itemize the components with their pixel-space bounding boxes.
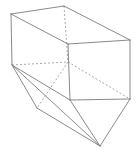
figure-background — [0, 0, 137, 157]
wireframe-solid-svg — [0, 0, 137, 157]
wireframe-figure-container — [0, 0, 137, 157]
